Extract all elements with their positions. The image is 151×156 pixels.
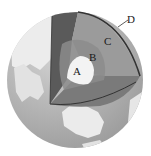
label-C-mantle: C bbox=[104, 36, 111, 47]
label-A-inner-core: A bbox=[73, 66, 81, 77]
label-B-outer-core: B bbox=[89, 52, 96, 63]
label-D-crust: D bbox=[127, 14, 135, 25]
earth-structure-diagram: A B C D bbox=[0, 0, 151, 156]
